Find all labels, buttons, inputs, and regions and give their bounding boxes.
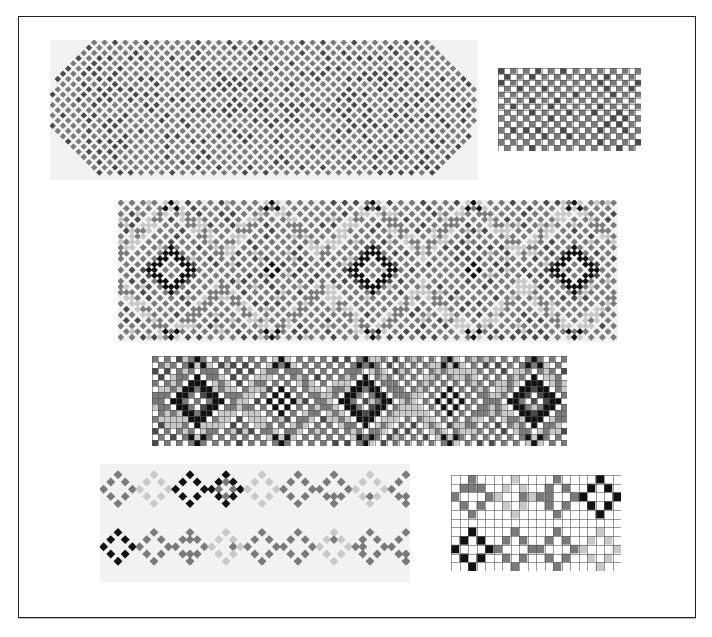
beadwork-image-canvas [118, 200, 618, 342]
band-3-photo [100, 464, 410, 582]
band-3-chart [451, 475, 621, 571]
pattern-grid-canvas [451, 475, 621, 571]
band-2-photo [118, 200, 618, 342]
pattern-grid-canvas [152, 356, 567, 446]
pattern-grid-canvas [498, 68, 641, 151]
beadwork-image-canvas [50, 40, 478, 180]
clipped-header-text [0, 0, 712, 6]
band-1-photo [50, 40, 478, 180]
beadwork-image-canvas [100, 464, 410, 582]
band-1-chart [498, 68, 641, 151]
band-2-chart [152, 356, 567, 446]
